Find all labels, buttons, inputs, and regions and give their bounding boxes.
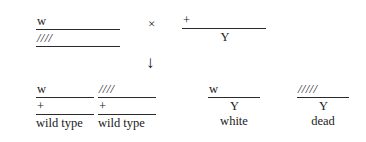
offspring-3-bottom-allele: Y xyxy=(208,98,261,113)
parent-maternal-bottom-allele: //// xyxy=(36,30,120,47)
down-arrow-icon: ↓ xyxy=(146,54,155,71)
offspring-4-phenotype-label: dead xyxy=(297,113,349,129)
offspring-4-bottom-allele: Y xyxy=(297,98,350,113)
parent-maternal-top-allele: w xyxy=(36,14,120,30)
offspring-3-top-allele: w xyxy=(208,82,260,98)
parent-paternal-top-allele: + xyxy=(182,13,266,29)
offspring-genotype-1: w + wild type xyxy=(36,82,94,131)
offspring-1-top-allele: w xyxy=(36,82,94,98)
parent-paternal-bottom-allele: Y xyxy=(182,29,267,44)
offspring-1-phenotype-label: wild type xyxy=(36,115,94,131)
parent-genotype-maternal: w //// xyxy=(36,14,120,47)
offspring-3-phenotype-label: white xyxy=(208,113,260,129)
offspring-1-bottom-allele: + xyxy=(36,98,94,115)
offspring-genotype-3: w Y white xyxy=(208,82,260,129)
offspring-2-top-allele: //// xyxy=(98,82,156,98)
genetic-cross-figure: w //// × + Y ↓ w + wild type //// + wild… xyxy=(0,0,366,142)
parent-genotype-paternal: + Y xyxy=(182,13,266,44)
cross-icon: × xyxy=(148,17,155,30)
offspring-genotype-2: //// + wild type xyxy=(98,82,156,131)
offspring-4-top-allele: ///// xyxy=(297,82,349,98)
offspring-genotype-4: ///// Y dead xyxy=(297,82,349,129)
offspring-2-bottom-allele: + xyxy=(98,98,156,115)
offspring-2-phenotype-label: wild type xyxy=(98,115,156,131)
